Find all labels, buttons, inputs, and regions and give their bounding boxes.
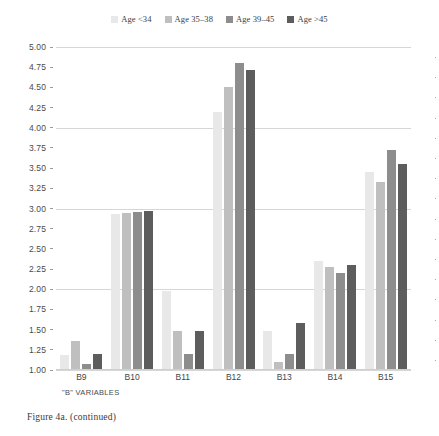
bar xyxy=(336,273,345,370)
legend-entry: Age 39–45 xyxy=(226,14,274,24)
bar-group xyxy=(310,47,361,370)
bar xyxy=(133,212,142,370)
y-axis-tick-label: 1.75 xyxy=(29,304,46,314)
bar xyxy=(314,261,323,370)
bar-group xyxy=(157,47,208,370)
y-axis-tick-mark xyxy=(50,349,53,350)
y-axis-tick: 2.75 xyxy=(0,223,56,235)
legend-label: Age >45 xyxy=(297,14,327,24)
y-axis-tick: 4.25 xyxy=(0,102,56,114)
y-axis-minor-tick xyxy=(435,239,436,240)
bar xyxy=(325,267,334,370)
y-axis-minor-tick xyxy=(435,97,436,98)
y-axis-tick-mark xyxy=(50,370,53,371)
y-axis-tick: 2.25 xyxy=(0,263,56,275)
y-axis-tick-label: 3.75 xyxy=(29,143,46,153)
bar-group xyxy=(56,47,107,370)
legend-swatch-icon xyxy=(226,16,233,23)
y-axis-tick-label: 2.75 xyxy=(29,224,46,234)
bar xyxy=(111,214,120,370)
y-axis-tick-label: 3.00 xyxy=(29,204,46,214)
x-axis: B9B10B11B12B13B14B15 xyxy=(56,372,411,382)
bar xyxy=(195,331,204,370)
bar-group xyxy=(107,47,158,370)
x-axis-tick-label: B11 xyxy=(157,372,208,382)
bar xyxy=(376,182,385,370)
y-axis-tick-label: 4.75 xyxy=(29,62,46,72)
legend-entry: Age <34 xyxy=(111,14,151,24)
x-axis-tick-label: B10 xyxy=(107,372,158,382)
y-axis-tick-label: 2.00 xyxy=(29,284,46,294)
legend-entry: Age >45 xyxy=(287,14,327,24)
y-axis-tick: 3.75 xyxy=(0,142,56,154)
legend-swatch-icon xyxy=(111,16,118,23)
bar xyxy=(224,87,233,370)
y-axis-tick: 2.50 xyxy=(0,243,56,255)
y-axis-tick-mark xyxy=(50,47,53,48)
bar xyxy=(60,355,69,370)
y-axis-minor-tick xyxy=(435,279,436,280)
bar xyxy=(387,150,396,370)
y-axis-tick: 4.50 xyxy=(0,81,56,93)
y-axis-tick-mark xyxy=(50,188,53,189)
y-axis-tick-mark xyxy=(50,329,53,330)
y-axis-tick: 3.00 xyxy=(0,203,56,215)
y-axis-tick: 4.75 xyxy=(0,61,56,73)
y-axis-tick-mark xyxy=(50,228,53,229)
bar xyxy=(263,331,272,370)
bar xyxy=(173,331,182,370)
bar-group xyxy=(259,47,310,370)
y-axis-minor-tick xyxy=(435,158,436,159)
y-axis-tick-mark xyxy=(50,248,53,249)
bar xyxy=(184,354,193,370)
x-axis-tick-label: B13 xyxy=(259,372,310,382)
legend-label: Age 39–45 xyxy=(236,14,274,24)
y-axis-tick-mark xyxy=(50,309,53,310)
figure-caption: Figure 4a. (continued) xyxy=(27,412,116,422)
legend-entry: Age 35–38 xyxy=(165,14,213,24)
bar xyxy=(285,354,294,370)
y-axis-minor-tick xyxy=(435,360,436,361)
y-axis-tick: 3.25 xyxy=(0,182,56,194)
y-axis-tick-mark xyxy=(50,107,53,108)
y-axis-tick-label: 4.00 xyxy=(29,123,46,133)
y-axis-tick-mark xyxy=(50,289,53,290)
y-axis-minor-tick xyxy=(435,77,436,78)
legend-label: Age 35–38 xyxy=(175,14,213,24)
y-axis-tick-label: 2.50 xyxy=(29,244,46,254)
x-axis-tick-label: B14 xyxy=(310,372,361,382)
bar-group xyxy=(208,47,259,370)
bar xyxy=(71,341,80,370)
y-axis-tick-mark xyxy=(50,168,53,169)
y-axis-tick-label: 4.25 xyxy=(29,103,46,113)
gridline xyxy=(56,370,411,371)
y-axis-tick-label: 1.00 xyxy=(29,365,46,375)
y-axis-minor-tick xyxy=(435,340,436,341)
x-axis-tick-label: B9 xyxy=(56,372,107,382)
y-axis-tick: 1.50 xyxy=(0,324,56,336)
y-axis-tick-mark xyxy=(50,67,53,68)
y-axis-minor-tick xyxy=(435,118,436,119)
y-axis-tick-mark xyxy=(50,269,53,270)
bar xyxy=(347,265,356,370)
bar xyxy=(246,70,255,370)
bar xyxy=(365,172,374,370)
y-axis-tick-label: 1.50 xyxy=(29,325,46,335)
y-axis-minor-tick xyxy=(435,178,436,179)
bar xyxy=(398,164,407,370)
x-axis-tick-label: B12 xyxy=(208,372,259,382)
y-axis-minor-tick xyxy=(435,259,436,260)
y-axis-tick: 1.25 xyxy=(0,344,56,356)
y-axis-tick-label: 2.25 xyxy=(29,264,46,274)
bar xyxy=(144,211,153,370)
y-axis-minor-tick xyxy=(435,138,436,139)
bar xyxy=(235,63,244,370)
x-axis-label: "B" VARIABLES xyxy=(56,388,411,397)
y-axis-tick: 1.00 xyxy=(0,364,56,376)
y-axis-tick: 2.00 xyxy=(0,283,56,295)
y-axis-tick: 1.75 xyxy=(0,303,56,315)
y-axis-minor-tick xyxy=(435,198,436,199)
legend-label: Age <34 xyxy=(121,14,151,24)
bar-groups xyxy=(56,47,411,370)
plot-area xyxy=(56,47,411,370)
